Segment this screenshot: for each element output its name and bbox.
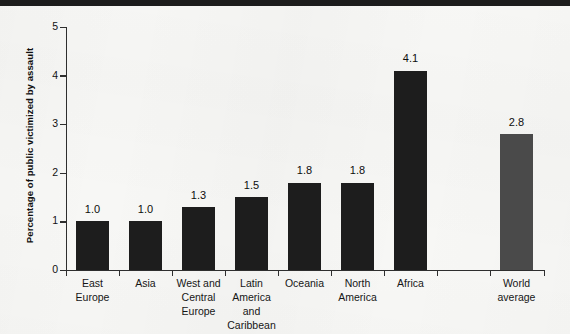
category-label-latin-america-caribbean: LatinAmericaandCaribbean: [222, 276, 282, 332]
y-tick-label-2: 2: [36, 166, 58, 178]
y-tick-label-4: 4: [36, 69, 58, 81]
bar-value-west-central-europe: 1.3: [179, 189, 219, 201]
bar-value-world-average: 2.8: [497, 116, 537, 128]
plot-area: Percentage of public victimized by assau…: [0, 0, 570, 334]
bar-value-north-america: 1.8: [338, 164, 378, 176]
bar-west-central-europe: [182, 207, 215, 270]
y-tick-mark-4: [60, 75, 67, 76]
category-label-oceania: Oceania: [275, 276, 335, 290]
bar-value-africa: 4.1: [391, 52, 431, 64]
y-tick-label-1: 1: [36, 214, 58, 226]
bar-oceania: [288, 183, 321, 270]
category-label-east-europe: EastEurope: [63, 276, 123, 304]
category-label-world-average: Worldaverage: [487, 276, 547, 304]
chart-figure: Percentage of public victimized by assau…: [0, 0, 570, 334]
bar-value-oceania: 1.8: [285, 164, 325, 176]
y-tick-mark-2: [60, 173, 67, 174]
y-tick-label-0: 0: [36, 263, 58, 275]
bar-latin-america-caribbean: [235, 197, 268, 270]
y-tick-label-5: 5: [36, 20, 58, 32]
bar-east-europe: [76, 221, 109, 270]
bar-value-east-europe: 1.0: [73, 203, 113, 215]
category-label-africa: Africa: [381, 276, 441, 290]
y-tick-mark-5: [60, 27, 67, 28]
bar-north-america: [341, 183, 374, 270]
y-axis-line: [66, 27, 67, 270]
y-tick-mark-3: [60, 124, 67, 125]
bar-asia: [129, 221, 162, 270]
y-axis-title: Percentage of public victimized by assau…: [24, 21, 35, 271]
y-tick-label-3: 3: [36, 117, 58, 129]
category-label-north-america: NorthAmerica: [328, 276, 388, 304]
bar-value-latin-america-caribbean: 1.5: [232, 179, 272, 191]
y-tick-mark-1: [60, 221, 67, 222]
bar-world-average: [500, 134, 533, 270]
bar-africa: [394, 71, 427, 270]
bar-value-asia: 1.0: [126, 203, 166, 215]
